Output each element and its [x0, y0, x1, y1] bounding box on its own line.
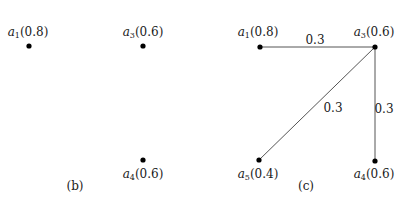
panel-c: 0.30.30.3a1(0.8)a3(0.6)a5(0.4)a4(0.6)(c)	[238, 25, 395, 193]
node-a1-label: a1(0.8)	[8, 25, 49, 40]
edge-weight-label: 0.3	[374, 102, 393, 116]
node-a4-label: a4(0.6)	[354, 167, 395, 182]
node-a4-dot	[140, 157, 145, 162]
node-a4-dot	[372, 158, 377, 163]
node-a1-dot	[257, 44, 262, 49]
panel-caption: (c)	[298, 179, 314, 193]
node-a3-label: a3(0.6)	[354, 25, 395, 40]
edge-a3-a5	[259, 47, 375, 160]
node-a1-dot	[26, 43, 31, 48]
node-a3-dot	[372, 44, 377, 49]
node-a1-label: a1(0.8)	[238, 25, 279, 40]
edge-weight-label: 0.3	[305, 33, 324, 47]
node-a5-dot	[256, 157, 261, 162]
graph-diagram: a1(0.8)a3(0.6)a4(0.6)(b) 0.30.30.3a1(0.8…	[0, 0, 402, 207]
edge-weight-label: 0.3	[323, 101, 342, 115]
panel-caption: (b)	[66, 179, 83, 193]
node-a5-label: a5(0.4)	[238, 167, 279, 182]
node-a4-label: a4(0.6)	[123, 167, 164, 182]
node-a3-label: a3(0.6)	[123, 25, 164, 40]
panel-b: a1(0.8)a3(0.6)a4(0.6)(b)	[8, 25, 164, 193]
node-a3-dot	[140, 43, 145, 48]
